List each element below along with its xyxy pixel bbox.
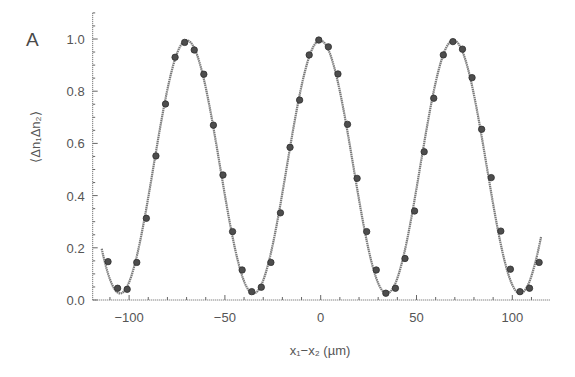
x-tick-label: −100 <box>114 310 143 325</box>
y-tick-label: 0.2 <box>67 241 85 256</box>
y-tick-label: 0.8 <box>67 84 85 99</box>
data-point <box>134 259 140 265</box>
data-point <box>536 259 542 265</box>
data-point <box>249 288 255 294</box>
x-tick-label: 0 <box>317 310 324 325</box>
y-tick-label: 0.4 <box>67 189 85 204</box>
data-point <box>258 284 264 290</box>
data-point <box>124 286 130 292</box>
data-point <box>402 255 408 261</box>
data-point <box>431 95 437 101</box>
panel-label: A <box>26 29 39 50</box>
data-point <box>210 122 216 128</box>
data-point <box>181 39 187 45</box>
data-point <box>153 153 159 159</box>
data-point <box>105 258 111 264</box>
y-tick-label: 1.0 <box>67 32 85 47</box>
data-point <box>459 46 465 52</box>
data-point <box>373 267 379 273</box>
data-point <box>363 228 369 234</box>
data-point <box>287 144 293 150</box>
x-axis: −100−50050100 <box>93 295 551 325</box>
y-tick-label: 0.6 <box>67 136 85 151</box>
data-point <box>201 71 207 77</box>
x-tick-label: 50 <box>409 310 423 325</box>
data-point <box>268 259 274 265</box>
y-axis: 0.00.20.40.60.81.0 <box>67 13 98 308</box>
data-point <box>191 47 197 53</box>
data-point <box>335 71 341 77</box>
data-point <box>498 228 504 234</box>
data-point <box>344 121 350 127</box>
x-axis-title: x₁−x₂ (µm) <box>290 343 351 358</box>
data-point <box>325 44 331 50</box>
data-point <box>296 97 302 103</box>
data-point <box>316 37 322 43</box>
data-point <box>143 215 149 221</box>
data-point <box>306 52 312 58</box>
data-point <box>229 228 235 234</box>
data-point <box>162 101 168 107</box>
data-point <box>277 210 283 216</box>
data-point <box>450 38 456 44</box>
data-point <box>172 54 178 60</box>
y-tick-label: 0.0 <box>67 293 85 308</box>
x-tick-label: −50 <box>214 310 236 325</box>
data-point <box>114 285 120 291</box>
data-point <box>469 74 475 80</box>
data-point <box>488 174 494 180</box>
correlation-chart: A 0.00.20.40.60.81.0 −100−50050100 ⟨Δn₁Δ… <box>0 0 575 377</box>
x-tick-label: 100 <box>501 310 523 325</box>
data-point <box>392 285 398 291</box>
data-point <box>507 266 513 272</box>
data-point <box>478 126 484 132</box>
data-point <box>440 52 446 58</box>
data-point <box>354 175 360 181</box>
data-point <box>383 290 389 296</box>
data-point <box>526 285 532 291</box>
data-point <box>517 288 523 294</box>
data-point <box>239 267 245 273</box>
data-point <box>220 172 226 178</box>
data-point <box>421 149 427 155</box>
data-point <box>411 208 417 214</box>
y-axis-title: ⟨Δn₁Δn₂⟩ <box>28 111 43 162</box>
